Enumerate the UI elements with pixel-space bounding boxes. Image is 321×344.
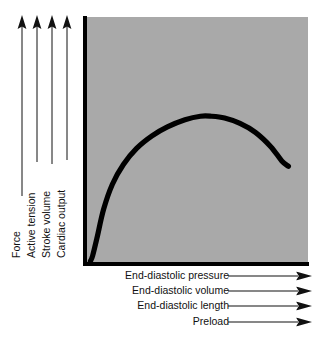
x-axis-label-end-diastolic-length: End-diastolic length <box>0 298 321 313</box>
right-arrow-icon <box>228 286 312 295</box>
y-axis-labels: Force Active tension Stroke volume Cardi… <box>0 0 83 270</box>
y-axis-label-text: Stroke volume <box>40 191 52 258</box>
x-axis-labels: End-diastolic pressure End-diastolic vol… <box>0 266 321 344</box>
x-axis-label-preload: Preload <box>0 314 321 329</box>
x-axis-label-text: End-diastolic pressure <box>125 269 229 282</box>
right-arrow-icon <box>228 271 312 280</box>
x-axis-label-end-diastolic-volume: End-diastolic volume <box>0 283 321 298</box>
y-axis-label-text: Cardiac output <box>55 190 67 258</box>
plot-area <box>83 17 308 265</box>
y-axis-line <box>83 16 87 266</box>
y-axis-label-text: Active tension <box>25 193 37 258</box>
y-axis-label-text: Force <box>10 231 22 258</box>
x-axis-label-text: Preload <box>193 315 229 328</box>
frank-starling-figure: Force Active tension Stroke volume Cardi… <box>0 0 321 344</box>
right-arrow-icon <box>228 301 312 310</box>
y-axis-label-cardiac-output: Cardiac output <box>59 0 75 262</box>
x-axis-label-text: End-diastolic length <box>137 299 229 312</box>
right-arrow-icon <box>228 317 312 326</box>
x-axis-label-text: End-diastolic volume <box>132 284 229 297</box>
x-axis-label-end-diastolic-pressure: End-diastolic pressure <box>0 268 321 283</box>
